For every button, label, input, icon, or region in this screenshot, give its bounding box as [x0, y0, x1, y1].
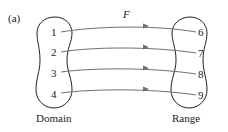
- figure-label: (a): [8, 12, 21, 25]
- arrow-4-to-9: [61, 90, 196, 95]
- domain-value-4: 4: [51, 88, 57, 100]
- function-mapping-diagram: (a) 1 2 3 4 6 7 8 9 F Domain Range: [0, 0, 228, 132]
- range-value-6: 6: [198, 26, 204, 38]
- range-value-7: 7: [198, 47, 204, 59]
- domain-value-3: 3: [51, 67, 57, 79]
- range-value-9: 9: [198, 89, 204, 101]
- arrow-3-to-8: [61, 69, 196, 74]
- range-label: Range: [172, 112, 200, 124]
- domain-label: Domain: [36, 112, 72, 124]
- domain-value-2: 2: [51, 46, 57, 58]
- arrowheads: [143, 24, 149, 92]
- arrow-1-to-6: [61, 27, 196, 32]
- range-value-8: 8: [198, 68, 204, 80]
- function-name: F: [122, 8, 130, 20]
- domain-value-1: 1: [51, 26, 57, 38]
